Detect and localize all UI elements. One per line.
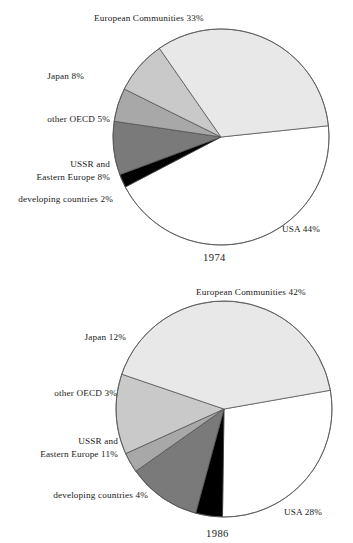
label-usa-1986: USA 28% xyxy=(284,507,322,517)
year-label-1974: 1974 xyxy=(203,252,226,263)
label-ussr-eastern-europe-1986-line1: USSR and xyxy=(78,436,118,446)
label-ussr-eastern-europe-1974-line1: USSR and xyxy=(70,159,110,169)
pie-chart-1974: European Communities 33% Japan 8% other … xyxy=(0,0,353,272)
label-ussr-eastern-europe-1986-line2: Eastern Europe 11% xyxy=(40,449,118,459)
label-other-oecd-1974: other OECD 5% xyxy=(47,114,110,124)
pie-slices-1986 xyxy=(116,301,332,517)
slice-usa-1986 xyxy=(222,390,332,517)
label-developing-countries-1974: developing countries 2% xyxy=(18,194,113,204)
pie-chart-1986: European Communities 42% Japan 12% other… xyxy=(0,272,353,543)
label-european-communities-1986: European Communities 42% xyxy=(196,287,306,297)
label-ussr-eastern-europe-1974-line2: Eastern Europe 8% xyxy=(37,172,111,182)
year-label-1986: 1986 xyxy=(206,528,229,539)
pie-slices-1974 xyxy=(113,29,329,245)
label-developing-countries-1986: developing countries 4% xyxy=(53,490,148,500)
label-european-communities-1974: European Communities 33% xyxy=(94,13,204,23)
label-usa-1974: USA 44% xyxy=(282,224,320,234)
pie-chart-1986-svg: European Communities 42% Japan 12% other… xyxy=(0,272,353,543)
label-other-oecd-1986: other OECD 3% xyxy=(54,388,117,398)
label-japan-1986: Japan 12% xyxy=(85,332,127,342)
pie-chart-1974-svg: European Communities 33% Japan 8% other … xyxy=(0,0,353,272)
label-japan-1974: Japan 8% xyxy=(47,71,84,81)
